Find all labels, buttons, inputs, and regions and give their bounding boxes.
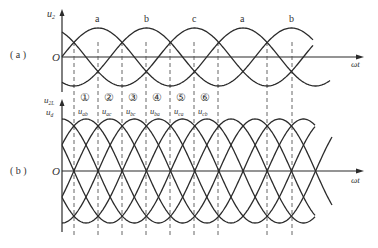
panel-b-label: ( b ) (10, 165, 27, 177)
panel-b-y-label-line: u2L (44, 95, 54, 106)
panel-a-y-label: u2 (47, 8, 55, 20)
segment-line-label: ucb (198, 106, 208, 117)
phase-label: a (95, 13, 100, 24)
x-axis-arrow-icon (356, 169, 364, 174)
panel-b-x-label: ωt (351, 175, 360, 185)
three-phase-rectifier-waveform-diagram: ( a ) ( b ) u2 O ωt u2L ud O ωt a b c a … (0, 0, 378, 248)
phase-label: b (144, 13, 149, 24)
panel-a-x-label: ωt (351, 59, 360, 69)
panel-a-label: ( a ) (10, 49, 26, 61)
segment-number: ③ (128, 91, 138, 103)
panel-b-origin-label: O (52, 165, 60, 177)
phase-label: c (192, 13, 197, 24)
panel-b-y-label-output: ud (46, 107, 54, 118)
segment-number: ⑥ (200, 91, 210, 103)
segment-line-label: ubc (126, 106, 136, 117)
y-axis-arrow-icon (60, 9, 65, 16)
segment-number: ④ (152, 91, 162, 103)
segment-number: ② (104, 91, 114, 103)
segment-line-label: uba (150, 106, 160, 117)
phase-label: b (289, 13, 294, 24)
segment-line-label: uac (102, 106, 112, 117)
panel-a-origin-label: O (52, 51, 60, 63)
segment-number: ① (80, 91, 90, 103)
y-axis-arrow-icon (60, 99, 65, 106)
phase-label: a (240, 13, 245, 24)
segment-number: ⑤ (176, 91, 186, 103)
phase-labels: a b c a b (95, 13, 294, 24)
segment-line-label: uab (78, 106, 88, 117)
segment-line-label: uca (174, 106, 184, 117)
